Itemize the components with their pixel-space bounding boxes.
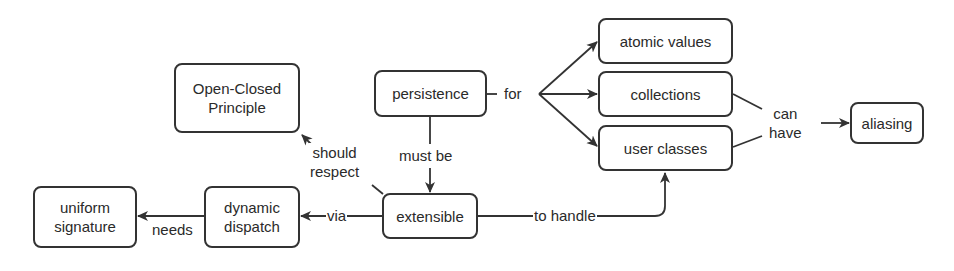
edge-label-must-be: must be (398, 146, 453, 165)
concept-map: Open-Closed Principle persistence atomic… (0, 0, 954, 271)
edge-label-can-have: can have (768, 104, 803, 142)
node-aliasing[interactable]: aliasing (850, 102, 924, 144)
edge-label-for: for (503, 84, 523, 103)
edge-for-atomic-values (539, 42, 597, 94)
node-uniform-signature[interactable]: uniform signature (33, 186, 137, 248)
node-persistence[interactable]: persistence (374, 70, 487, 117)
node-extensible[interactable]: extensible (382, 193, 478, 239)
edge-label-should-respect: should respect (309, 143, 360, 181)
edge-for-user-classes (539, 94, 597, 146)
edge-collections-canhave (733, 94, 762, 109)
node-user-classes[interactable]: user classes (598, 125, 733, 171)
edge-label-to-handle: to handle (533, 206, 597, 225)
node-open-closed-principle[interactable]: Open-Closed Principle (174, 63, 300, 133)
node-atomic-values[interactable]: atomic values (598, 18, 733, 64)
edge-userclasses-canhave (733, 136, 762, 147)
node-collections[interactable]: collections (598, 71, 733, 117)
edge-label-via: via (326, 206, 347, 225)
edge-extensible-shouldrespect (372, 185, 383, 194)
node-dynamic-dispatch[interactable]: dynamic dispatch (204, 186, 300, 248)
edge-label-needs: needs (151, 220, 194, 239)
